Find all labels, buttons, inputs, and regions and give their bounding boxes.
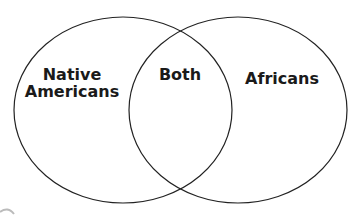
- corner-arc-fragment: [0, 209, 14, 214]
- left-set-ellipse: [14, 17, 232, 203]
- left-set-label-line-2: Americans: [24, 83, 120, 100]
- left-set-label: Native Americans: [24, 66, 120, 100]
- right-set-ellipse: [129, 17, 347, 203]
- right-set-label: Africans: [242, 70, 322, 87]
- intersection-label: Both: [150, 66, 210, 83]
- venn-diagram: [0, 0, 348, 217]
- left-set-label-line-1: Native: [24, 66, 120, 83]
